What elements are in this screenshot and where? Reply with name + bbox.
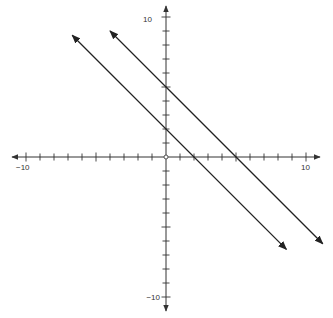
x-axis-min-label: −10 xyxy=(16,163,30,172)
origin-marker xyxy=(164,155,168,159)
y-axis-min-label: −10 xyxy=(146,293,160,302)
line-2 xyxy=(110,31,323,244)
plotted-lines xyxy=(72,31,323,249)
line-1 xyxy=(72,35,286,249)
x-axis-max-label: 10 xyxy=(301,163,310,172)
coordinate-plane: −10 10 10 −10 xyxy=(0,0,333,318)
y-axis-max-label: 10 xyxy=(143,15,152,24)
